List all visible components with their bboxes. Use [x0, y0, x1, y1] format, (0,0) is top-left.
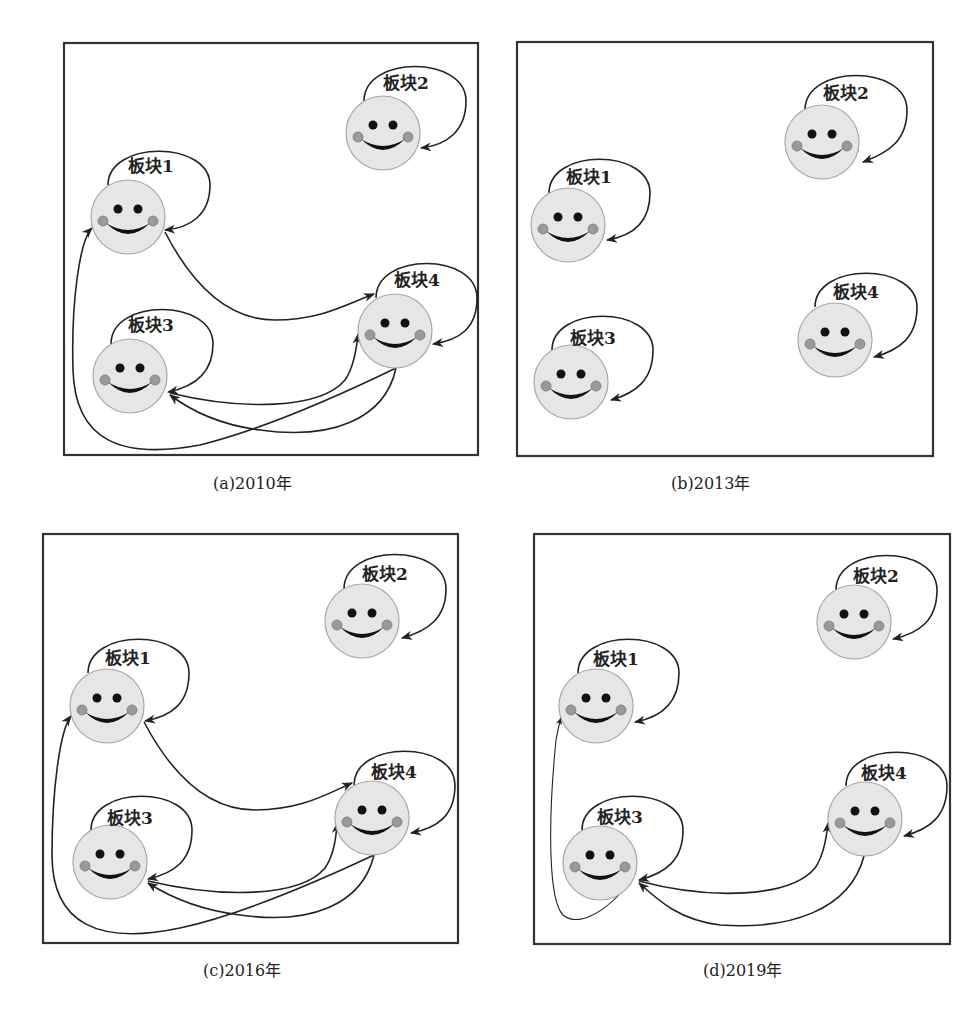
- node-4: [335, 781, 409, 855]
- node-label: 板块2: [383, 73, 429, 93]
- node-3: [563, 826, 637, 900]
- edge-3-to-4: [148, 823, 337, 892]
- node-1: [559, 669, 633, 743]
- edge-1-to-4: [144, 722, 352, 810]
- edge-4-to-3: [148, 855, 374, 918]
- node-3: [534, 345, 608, 419]
- panel-c: 板块1 板块2 板块3 板块4 (c)2016年: [43, 534, 458, 980]
- node-3: [73, 825, 147, 899]
- block-network-figure: 板块1 板块2 板块3 板块4 (a)2010年: [0, 0, 979, 1012]
- node-3: [93, 339, 167, 413]
- node-2: [325, 584, 399, 658]
- node-label: 板块2: [853, 566, 899, 586]
- node-label: 板块1: [566, 167, 612, 187]
- node-4: [828, 782, 902, 856]
- node-label: 板块3: [107, 808, 153, 828]
- node-2: [817, 585, 891, 659]
- node-4: [358, 294, 432, 368]
- panel-caption: (d)2019年: [703, 961, 782, 980]
- node-label: 板块1: [593, 649, 639, 669]
- edge-3-to-4: [639, 823, 828, 893]
- edge-4-to-1: [52, 716, 374, 934]
- node-label: 板块1: [105, 648, 151, 668]
- node-label: 板块3: [570, 328, 616, 348]
- edge-4-to-1: [73, 228, 396, 450]
- panel-b: 板块1 板块2 板块3 板块4 (b)2013年: [517, 42, 933, 493]
- node-label: 板块3: [128, 315, 174, 335]
- panel-a: 板块1 板块2 板块3 板块4 (a)2010年: [64, 43, 478, 493]
- panel-d: 板块1 板块2 板块3 板块4 (d)2019年: [534, 534, 950, 980]
- edge-4-to-3: [639, 856, 864, 926]
- node-1: [531, 188, 605, 262]
- node-1: [91, 180, 165, 254]
- node-2: [785, 105, 859, 179]
- node-label: 板块4: [833, 282, 879, 302]
- node-label: 板块2: [362, 564, 408, 584]
- panel-caption: (a)2010年: [213, 474, 292, 493]
- node-4: [798, 303, 872, 377]
- node-label: 板块3: [597, 807, 643, 827]
- node-label: 板块2: [823, 83, 869, 103]
- edge-3-to-4: [170, 334, 358, 404]
- node-label: 板块1: [128, 156, 174, 176]
- node-label: 板块4: [394, 270, 440, 290]
- node-label: 板块4: [371, 762, 417, 782]
- node-1: [70, 669, 144, 743]
- edge-1-to-4: [165, 232, 374, 320]
- node-2: [346, 96, 420, 170]
- node-label: 板块4: [861, 763, 907, 783]
- panel-caption: (c)2016年: [203, 961, 281, 980]
- panel-caption: (b)2013年: [671, 474, 750, 493]
